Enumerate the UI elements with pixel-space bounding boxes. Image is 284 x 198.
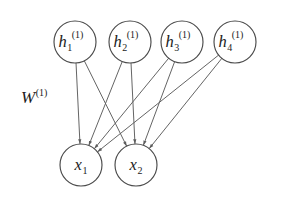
edge-h4-to-x2: [149, 58, 221, 148]
network-diagram: h1(1)h2(1)h3(1)h4(1)x1x2 W(1): [0, 0, 284, 198]
node-x1[interactable]: x1: [60, 144, 102, 186]
node-x2[interactable]: x2: [115, 144, 157, 186]
node-h1[interactable]: h1(1): [54, 21, 96, 63]
weight-label-group: W(1): [21, 87, 47, 107]
edge-h2-to-x1: [89, 62, 122, 146]
edge-h3-to-x2: [144, 62, 175, 145]
edge-h1-to-x1: [76, 63, 80, 144]
node-h4[interactable]: h4(1): [214, 21, 256, 63]
node-h2[interactable]: h2(1): [109, 21, 151, 63]
node-h3[interactable]: h3(1): [161, 21, 203, 63]
graph-canvas: h1(1)h2(1)h3(1)h4(1)x1x2 W(1): [0, 0, 284, 198]
node-group: h1(1)h2(1)h3(1)h4(1)x1x2: [54, 21, 256, 186]
edge-group: [76, 55, 222, 151]
weight-label: W(1): [21, 87, 47, 107]
